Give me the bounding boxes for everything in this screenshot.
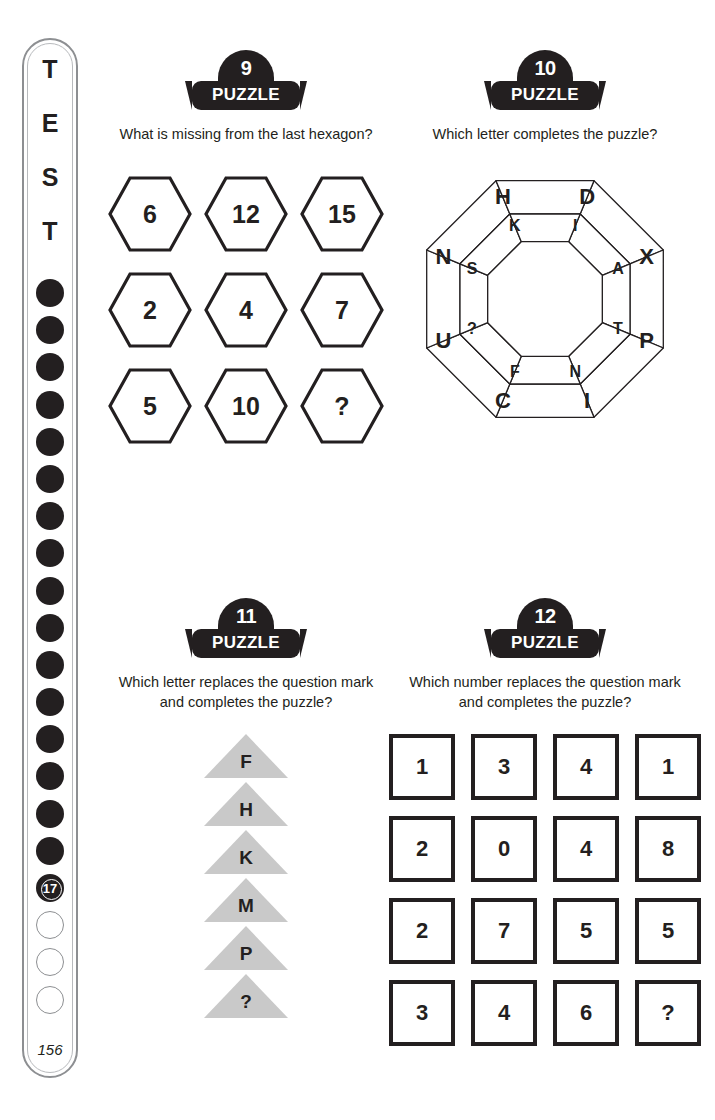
rail-dot-completed [36, 762, 64, 790]
hexagon-cell: 7 [294, 262, 390, 358]
rail-dot-list: 17 [36, 279, 64, 1023]
badge-number: 12 [517, 606, 573, 626]
rail-dot-completed [36, 428, 64, 456]
triangle-cell: ? [204, 974, 288, 1018]
badge-word: PUZZLE [491, 634, 599, 651]
rail-dot-completed [36, 577, 64, 605]
number-cell: 1 [635, 734, 701, 800]
triangle-cell: F [204, 734, 288, 778]
hexagon-value: ? [294, 358, 390, 454]
triangle-value: H [204, 782, 288, 826]
hexagon-cell: 5 [102, 358, 198, 454]
hexagon-cell: 2 [102, 262, 198, 358]
number-cell: 3 [471, 734, 537, 800]
octagon-outer-letter: U [435, 330, 451, 352]
number-grid: 134120482755346? [395, 734, 695, 1046]
badge-number: 11 [218, 606, 274, 626]
triangle-value: P [204, 926, 288, 970]
rail-dot-upcoming [36, 911, 64, 939]
rail-dot-current: 17 [36, 874, 64, 902]
octagon-outer-letter: I [584, 390, 590, 412]
question-line-1: Which number replaces the question mark [409, 674, 681, 690]
octagon-inner-letter: A [612, 261, 624, 277]
rail-dot-completed [36, 688, 64, 716]
hexagon-value: 4 [198, 262, 294, 358]
number-cell: 1 [389, 734, 455, 800]
number-cell: 2 [389, 898, 455, 964]
triangle-cell: K [204, 830, 288, 874]
hexagon-cell: ? [294, 358, 390, 454]
puzzle-block-9: 9 PUZZLE What is missing from the last h… [96, 50, 396, 454]
puzzle-question: Which letter completes the puzzle? [395, 124, 695, 144]
octagon-inner-letter: N [569, 364, 581, 380]
rail-dot-completed [36, 651, 64, 679]
number-cell: 4 [553, 816, 619, 882]
puzzle-question: Which number replaces the question mark … [395, 672, 695, 712]
rail-letter: T [42, 57, 57, 82]
number-cell: 4 [471, 980, 537, 1046]
octagon-outer-letter: D [579, 186, 595, 208]
rail-dot-completed [36, 279, 64, 307]
rail-dot-completed [36, 391, 64, 419]
octagon-diagram: HDXPICUNKIATNF?S [405, 154, 685, 444]
rail-letter: S [42, 165, 59, 190]
hexagon-value: 15 [294, 166, 390, 262]
triangle-value: ? [204, 974, 288, 1018]
number-cell: 5 [553, 898, 619, 964]
hexagon-value: 6 [102, 166, 198, 262]
rail-dot-completed [36, 539, 64, 567]
triangle-value: F [204, 734, 288, 778]
badge-word: PUZZLE [192, 634, 300, 651]
octagon-outer-letter: N [435, 246, 451, 268]
hexagon-grid: 61215247510? [96, 166, 396, 454]
octagon-outer-letter: H [495, 186, 511, 208]
rail-dot-upcoming [36, 948, 64, 976]
puzzle-badge: 12 PUZZLE [491, 598, 599, 658]
puzzle-question: What is missing from the last hexagon? [96, 124, 396, 144]
puzzle-badge: 11 PUZZLE [192, 598, 300, 658]
rail-current-number: 17 [43, 882, 57, 895]
octagon-inner-letter: K [509, 218, 521, 234]
number-cell: 0 [471, 816, 537, 882]
puzzle-question: Which letter replaces the question mark … [96, 672, 396, 712]
octagon-outer-letter: C [495, 390, 511, 412]
number-cell: ? [635, 980, 701, 1046]
number-cell: 4 [553, 734, 619, 800]
hexagon-cell: 12 [198, 166, 294, 262]
triangle-value: K [204, 830, 288, 874]
rail-letter: E [42, 111, 59, 136]
octagon-inner-letter: S [467, 261, 478, 277]
triangle-stack: FHKMP? [96, 734, 396, 1022]
triangle-cell: P [204, 926, 288, 970]
badge-word: PUZZLE [491, 86, 599, 103]
number-cell: 3 [389, 980, 455, 1046]
rail-dot-upcoming [36, 986, 64, 1014]
octagon-outer-letter: P [639, 330, 654, 352]
puzzle-block-10: 10 PUZZLE Which letter completes the puz… [395, 50, 695, 444]
hexagon-value: 12 [198, 166, 294, 262]
hexagon-cell: 15 [294, 166, 390, 262]
hexagon-cell: 6 [102, 166, 198, 262]
number-cell: 8 [635, 816, 701, 882]
octagon-inner-letter: T [613, 321, 623, 337]
question-line-2: and completes the puzzle? [160, 694, 333, 710]
octagon-svg [405, 154, 685, 444]
question-line-1: Which letter replaces the question mark [119, 674, 374, 690]
rail-dot-completed [36, 614, 64, 642]
rail-dot-completed [36, 837, 64, 865]
puzzle-badge: 9 PUZZLE [192, 50, 300, 110]
rail-dot-completed [36, 465, 64, 493]
page-number: 156 [24, 1041, 76, 1058]
octagon-outer-letter: X [639, 246, 654, 268]
triangle-cell: H [204, 782, 288, 826]
octagon-core [488, 242, 603, 357]
hexagon-value: 7 [294, 262, 390, 358]
puzzle-block-12: 12 PUZZLE Which number replaces the ques… [395, 598, 695, 1046]
rail-dot-completed [36, 316, 64, 344]
hexagon-cell: 10 [198, 358, 294, 454]
hexagon-cell: 4 [198, 262, 294, 358]
number-cell: 6 [553, 980, 619, 1046]
octagon-inner-letter: ? [467, 321, 477, 337]
hexagon-value: 2 [102, 262, 198, 358]
rail-dot-completed [36, 800, 64, 828]
